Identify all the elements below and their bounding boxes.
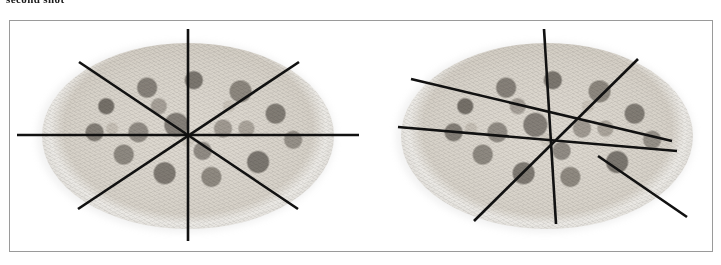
panel-right-pizza <box>362 21 714 251</box>
upper-right-slant-cut <box>474 59 638 221</box>
right-pizza-cut-lines <box>362 21 714 251</box>
lower-right-slant-cut <box>598 156 687 217</box>
shallow-left-cut <box>398 127 677 151</box>
steep-vertical-cut <box>544 29 556 224</box>
panel-left-pizza <box>10 21 362 251</box>
left-pizza-cut-lines <box>10 21 362 251</box>
figure-frame <box>9 20 713 252</box>
figure-caption: second shot <box>6 0 65 5</box>
figure-page: second shot <box>0 0 721 265</box>
